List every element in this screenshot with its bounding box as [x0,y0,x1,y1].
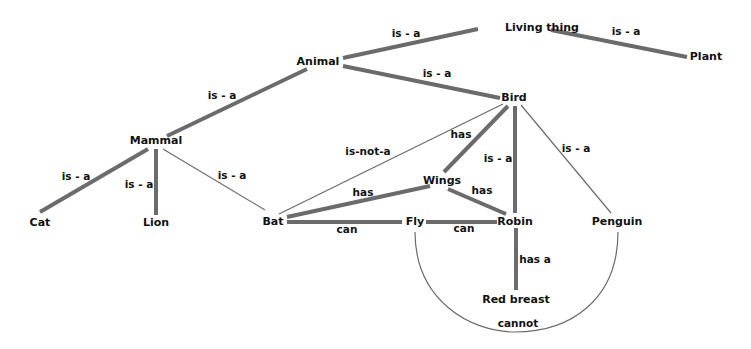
edge-label: has [472,184,493,196]
node-plant: Plant [690,50,722,63]
edge-label: has a [519,253,551,265]
edge-label: has [353,186,374,198]
node-bat: Bat [262,215,283,228]
edge-label: is-not-a [345,145,390,157]
node-lion: Lion [143,216,169,229]
node-fly: Fly [406,215,424,228]
edge-label: is - a [612,25,641,37]
edge-label: can [454,222,475,234]
node-penguin: Penguin [592,215,643,228]
edge-label: is - a [218,169,247,181]
edge-label: is - a [484,152,513,164]
edge-penguin-bird [521,105,611,213]
edge-label: can [337,223,358,235]
edge-label: has [451,128,472,140]
node-living-thing: Living thing [505,21,579,34]
edge-label: is - a [208,89,237,101]
node-animal: Animal [297,55,340,68]
semantic-network-diagram: is - a is - a is - a is - a is - a is - … [0,0,751,349]
node-cat: Cat [30,216,51,229]
edge-mammal-animal [167,69,307,136]
edge-bat-mammal [163,149,265,210]
node-bird: Bird [501,91,526,104]
node-wings: Wings [423,174,462,187]
edge-label: is - a [423,67,452,79]
edge-labels: is - a is - a is - a is - a is - a is - … [62,25,641,329]
edge-label: is - a [62,170,91,182]
edge-label: is - a [392,27,421,39]
node-red-breast: Red breast [482,293,550,306]
edge-label: cannot [498,317,539,329]
nodes: Living thing Plant Animal Bird Mammal Wi… [30,21,723,306]
node-mammal: Mammal [130,134,183,147]
node-robin: Robin [497,215,533,228]
edge-label: is - a [125,178,154,190]
edge-bird-animal [343,66,500,98]
edge-label: is - a [562,142,591,154]
